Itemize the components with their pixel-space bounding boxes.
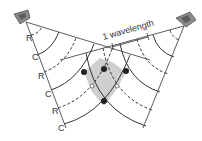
left-speaker-icon: [14, 10, 30, 24]
label-rarefaction: R: [26, 34, 33, 43]
node-dot: [90, 84, 94, 88]
antinode-dot: [101, 98, 107, 104]
label-rarefaction: R: [52, 107, 59, 116]
diagram-graphics: [0, 0, 202, 141]
label-compression: C: [58, 124, 65, 133]
antinode-dot: [101, 66, 107, 72]
antinode-dot: [123, 68, 129, 74]
label-compression: C: [32, 53, 39, 62]
interference-diagram: R C R C R C 1 wavelength: [0, 0, 202, 141]
label-rarefaction: R: [38, 72, 45, 81]
label-compression: C: [45, 90, 52, 99]
right-speaker-icon: [176, 12, 196, 27]
node-dot: [115, 84, 119, 88]
right-beam-edge-outer: [143, 26, 184, 128]
antinode-dot: [81, 69, 87, 75]
